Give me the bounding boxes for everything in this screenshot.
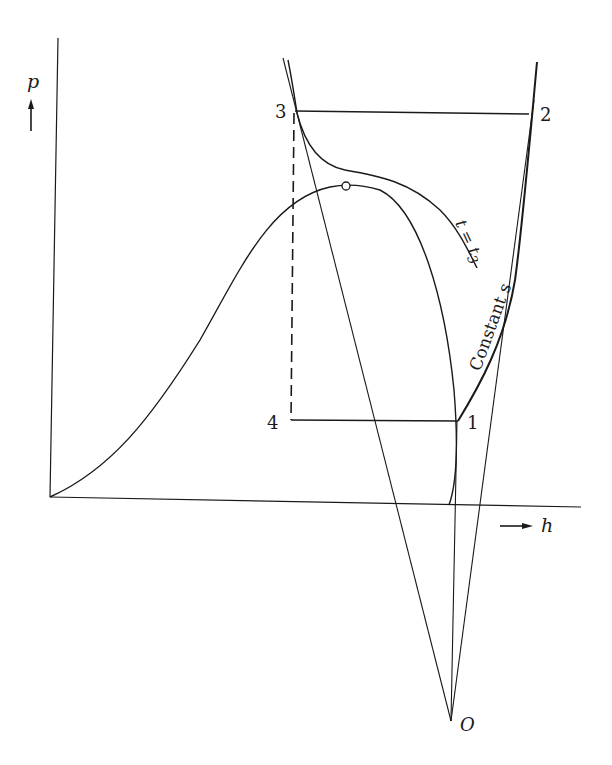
h-axis — [50, 497, 581, 507]
saturation-dome — [50, 185, 457, 505]
point-1-label: 1 — [467, 412, 478, 433]
isotherm-t3 — [288, 60, 477, 268]
throttling-line-3-4 — [291, 113, 294, 420]
point-3-label: 3 — [275, 101, 286, 122]
right-arrow-icon — [500, 523, 533, 529]
critical-point-marker — [342, 182, 350, 190]
h-axis-label: h — [541, 514, 553, 536]
p-axis-label: p — [27, 70, 39, 92]
p-h-diagram: p h t = t3 Constant s 3 2 4 1 O — [0, 0, 612, 765]
line-3-2 — [295, 111, 529, 114]
isotherm-label: t = t3 — [449, 217, 488, 267]
ray-o-1 — [451, 421, 457, 721]
point-o-label: O — [460, 714, 475, 735]
up-arrow-icon — [28, 99, 34, 131]
point-2-label: 2 — [540, 104, 551, 125]
p-axis — [50, 38, 58, 497]
ray-o-3 — [283, 58, 451, 721]
point-4-label: 4 — [267, 412, 278, 433]
